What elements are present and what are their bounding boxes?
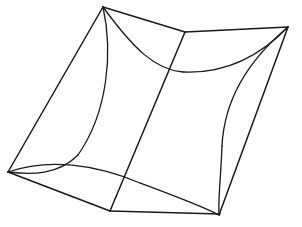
curve-right-panel-upper-segment <box>222 27 288 146</box>
curve-front-bottom-right-segment <box>140 183 219 215</box>
edge-back-top-to-right-straight <box>185 27 288 32</box>
edge-top-to-left-straight <box>8 7 103 172</box>
curve-right-panel-lower-segment <box>219 146 222 215</box>
edge-top-to-back-top-straight <box>103 7 185 32</box>
edge-base-bottom-straight <box>110 211 220 214</box>
curve-top-rear-right-segment <box>183 27 288 72</box>
pillow-solid-wireframe <box>0 0 302 227</box>
edge-left-to-base-left-straight <box>8 172 110 211</box>
curve-top-rear-left-segment <box>103 7 183 72</box>
curve-left-panel-upper-segment <box>78 7 108 155</box>
edge-center-vertical-fold <box>110 32 185 211</box>
figure-canvas <box>0 0 302 227</box>
